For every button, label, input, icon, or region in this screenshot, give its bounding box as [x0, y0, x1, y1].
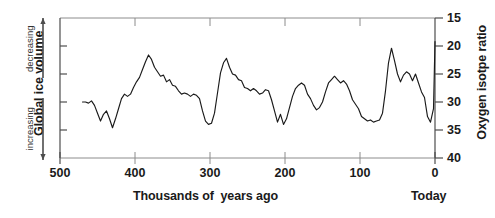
right-axis-ticks	[435, 18, 443, 158]
top-axis-ticks	[135, 18, 360, 26]
plot-area	[0, 0, 495, 218]
direction-bars	[40, 18, 45, 160]
data-series-line	[83, 42, 436, 128]
left-axis-ticks	[60, 46, 67, 130]
chart-figure: Global ice volume decreasing increasing …	[0, 0, 495, 218]
